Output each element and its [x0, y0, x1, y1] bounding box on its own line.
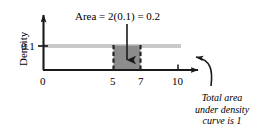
- area-annotation-label: Area = 2(0.1) = 0.2: [75, 11, 160, 22]
- x-axis-tick-label-7: 7: [138, 76, 144, 87]
- x-axis-tick-label-5: 5: [110, 76, 116, 87]
- x-axis-tick-label-10: 10: [172, 76, 183, 87]
- total-area-note-line-3: curve is 1: [185, 115, 259, 127]
- total-area-note-line-1: Total area: [185, 92, 259, 104]
- y-axis-tick-label-0-1: 0.1: [21, 41, 35, 52]
- total-area-note-line-2: under density: [185, 104, 259, 116]
- note-curved-arrow: [196, 57, 212, 86]
- total-area-note: Total area under density curve is 1: [185, 92, 259, 127]
- density-curve-figure: Density 0.1 0 5 7 10 Area = 2(0.1) = 0.2…: [0, 0, 264, 128]
- x-axis-tick-label-0: 0: [40, 76, 46, 87]
